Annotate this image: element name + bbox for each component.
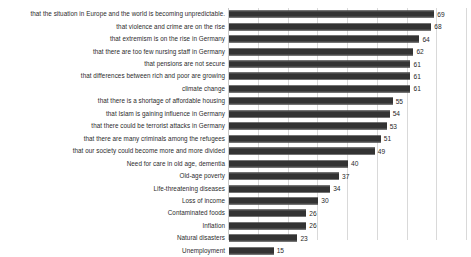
bar-fill xyxy=(229,73,410,80)
bar-row: Contaminated foods26 xyxy=(0,207,471,219)
bar: 68 xyxy=(229,23,431,30)
bar-value-label: 37 xyxy=(339,172,349,180)
category-label: that there are many criminals among the … xyxy=(84,135,225,143)
category-label: Life-threatening diseases xyxy=(153,185,225,193)
bar-value-label: 23 xyxy=(297,234,307,242)
bar-row: that there is a shortage of affordable h… xyxy=(0,95,471,107)
bar-fill xyxy=(229,61,410,68)
bar-row: Life-threatening diseases34 xyxy=(0,182,471,194)
category-label: Natural disasters xyxy=(177,234,225,242)
category-label: that there are too few nursing staff in … xyxy=(93,48,225,56)
bar: 61 xyxy=(229,61,410,68)
bar-value-label: 61 xyxy=(410,60,420,68)
category-label: Old-age poverty xyxy=(179,172,225,180)
category-label: that extremism is on the rise in Germany xyxy=(110,35,225,43)
bar: 69 xyxy=(229,11,434,18)
bar-value-label: 40 xyxy=(348,160,358,168)
bar-fill xyxy=(229,222,306,229)
category-label: that the situation in Europe and the wor… xyxy=(30,10,225,18)
category-label: Unemployment xyxy=(182,247,225,255)
bar-fill xyxy=(229,135,381,142)
bar-value-label: 61 xyxy=(410,72,420,80)
category-label: that our society could become more and m… xyxy=(73,147,225,155)
bar-fill xyxy=(229,210,306,217)
bar: 53 xyxy=(229,123,387,130)
category-label: Inflation xyxy=(202,222,225,230)
bar-row: that our society could become more and m… xyxy=(0,145,471,157)
bar-row: that violence and crime are on the rise6… xyxy=(0,20,471,32)
bar-fill xyxy=(229,11,434,18)
bar: 34 xyxy=(229,185,330,192)
bar: 64 xyxy=(229,36,419,43)
bar-value-label: 53 xyxy=(387,122,397,130)
bar: 54 xyxy=(229,110,390,117)
bar: 61 xyxy=(229,73,410,80)
category-label: that differences between rich and poor a… xyxy=(81,72,225,80)
bar: 37 xyxy=(229,173,339,180)
category-label: that Islam is gaining influence in Germa… xyxy=(106,110,225,118)
bar: 23 xyxy=(229,235,297,242)
bar-fill xyxy=(229,36,419,43)
bar: 26 xyxy=(229,222,306,229)
bar-row: that extremism is on the rise in Germany… xyxy=(0,33,471,45)
bar-fill xyxy=(229,235,297,242)
bar-row: climate change61 xyxy=(0,83,471,95)
bar-value-label: 26 xyxy=(306,209,316,217)
bar: 62 xyxy=(229,48,413,55)
bar-value-label: 49 xyxy=(375,147,385,155)
bar-fill xyxy=(229,185,330,192)
bar-fill xyxy=(229,48,413,55)
bar-fill xyxy=(229,110,390,117)
bar-row: Natural disasters23 xyxy=(0,232,471,244)
bar-value-label: 61 xyxy=(410,85,420,93)
bar-value-label: 68 xyxy=(431,23,441,31)
bar-row: that the situation in Europe and the wor… xyxy=(0,8,471,20)
bar-fill xyxy=(229,160,348,167)
bar-fill xyxy=(229,85,410,92)
bar-row: Inflation26 xyxy=(0,220,471,232)
bar-fill xyxy=(229,173,339,180)
category-label: that pensions are not secure xyxy=(144,60,225,68)
bar-fill xyxy=(229,98,393,105)
bar: 51 xyxy=(229,135,381,142)
bar: 55 xyxy=(229,98,393,105)
bar-row: that there are too few nursing staff in … xyxy=(0,45,471,57)
bar-value-label: 34 xyxy=(330,185,340,193)
bar: 49 xyxy=(229,148,375,155)
category-label: that there is a shortage of affordable h… xyxy=(98,97,225,105)
category-label: Loss of income xyxy=(182,197,225,205)
bar-value-label: 69 xyxy=(434,10,444,18)
bar-fill xyxy=(229,23,431,30)
category-label: that there could be terrorist attacks in… xyxy=(91,122,225,130)
bar-row: that Islam is gaining influence in Germa… xyxy=(0,108,471,120)
bar-value-label: 15 xyxy=(274,247,284,255)
bar-row: that there are many criminals among the … xyxy=(0,133,471,145)
bar: 26 xyxy=(229,210,306,217)
bar-row: Loss of income30 xyxy=(0,195,471,207)
category-label: that violence and crime are on the rise xyxy=(116,23,225,31)
bar-value-label: 64 xyxy=(419,35,429,43)
bar-row: that differences between rich and poor a… xyxy=(0,70,471,82)
bar-row: Old-age poverty37 xyxy=(0,170,471,182)
bar-value-label: 30 xyxy=(318,197,328,205)
bar-value-label: 62 xyxy=(413,48,423,56)
bar-fill xyxy=(229,197,318,204)
category-label: climate change xyxy=(182,85,225,93)
category-label: Contaminated foods xyxy=(168,209,225,217)
bar-fill xyxy=(229,123,387,130)
bar-value-label: 55 xyxy=(393,97,403,105)
bar-value-label: 54 xyxy=(390,110,400,118)
bar-fill xyxy=(229,148,375,155)
bar-row: Need for care in old age, dementia40 xyxy=(0,157,471,169)
bar-value-label: 26 xyxy=(306,222,316,230)
bar: 40 xyxy=(229,160,348,167)
bar-fill xyxy=(229,247,274,254)
bar: 61 xyxy=(229,85,410,92)
category-label: Need for care in old age, dementia xyxy=(127,160,225,168)
bar-value-label: 51 xyxy=(381,135,391,143)
bar-row: Unemployment15 xyxy=(0,245,471,257)
bar: 30 xyxy=(229,197,318,204)
bar-row: that there could be terrorist attacks in… xyxy=(0,120,471,132)
